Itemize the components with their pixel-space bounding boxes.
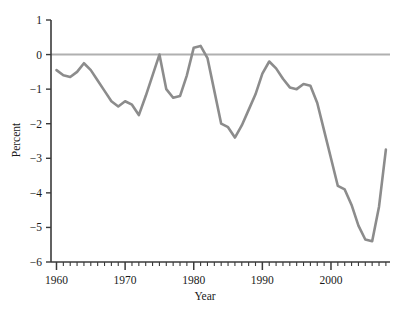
x-axis-title: Year	[194, 290, 215, 302]
x-axis-tick-label: 1990	[251, 274, 274, 286]
y-axis-tick-label: −2	[30, 118, 42, 130]
x-axis-tick-label: 1980	[182, 274, 205, 286]
chart-container: 10−1−2−3−4−5−6 19601970198019902000 Perc…	[0, 0, 396, 314]
y-axis-tick-label: 0	[36, 49, 42, 61]
y-axis-title: Percent	[10, 122, 22, 157]
x-axis-tick-label: 1970	[114, 274, 137, 286]
y-axis-tick-label: −6	[30, 256, 42, 268]
y-axis-tick-label: 1	[36, 14, 42, 26]
y-axis-tick-label: −3	[30, 152, 42, 164]
y-axis-tick-label: −5	[30, 221, 42, 233]
line-chart: 10−1−2−3−4−5−6 19601970198019902000 Perc…	[0, 0, 396, 314]
y-axis-tick-label: −1	[30, 83, 42, 95]
y-axis-tick-label: −4	[30, 187, 42, 199]
x-axis-tick-label: 2000	[319, 274, 342, 286]
x-axis-tick-label: 1960	[45, 274, 68, 286]
